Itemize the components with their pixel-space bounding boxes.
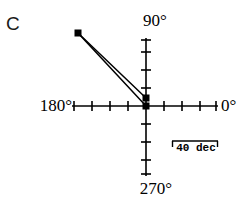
scalebar-label: 40 dec	[172, 142, 220, 155]
axis-label-180: 180°	[26, 96, 72, 115]
vector-to-origin	[78, 33, 146, 106]
axis-label-270: 270°	[124, 179, 188, 198]
data-marker-distal	[75, 30, 82, 37]
data-marker-origin	[143, 103, 150, 110]
vector-to-axis-point	[78, 33, 146, 98]
axis-label-0: 0°	[221, 96, 236, 115]
polar-vector-figure: C	[0, 0, 250, 208]
data-vectors-group	[78, 33, 146, 106]
data-marker-axis	[143, 95, 150, 102]
axis-label-90: 90°	[125, 11, 185, 30]
